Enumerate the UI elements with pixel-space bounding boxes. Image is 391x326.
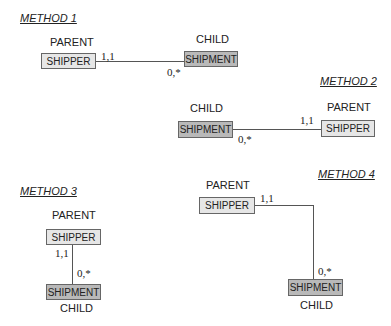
method-1-child-label: CHILD <box>196 33 229 45</box>
method-2-child-label: CHILD <box>190 102 223 114</box>
method-4-relationship-line-vertical <box>313 205 314 280</box>
method-4-parent-label: PARENT <box>206 179 250 191</box>
method-3-shipper-entity: SHIPPER <box>46 229 101 245</box>
method-1-parent-label: PARENT <box>50 36 94 48</box>
method-4-relationship-line-horizontal <box>255 205 314 206</box>
method-2-relationship-line <box>233 129 321 130</box>
method-3-relationship-line <box>72 245 73 284</box>
method-1-shipper-entity: SHIPPER <box>41 53 96 69</box>
method-2-parent-cardinality: 1,1 <box>300 114 314 126</box>
method-1-shipment-entity: SHIPMENT <box>184 51 238 67</box>
method-2-parent-label: PARENT <box>327 101 371 113</box>
method-2-child-cardinality: 0,* <box>238 133 252 145</box>
method-3-shipment-entity: SHIPMENT <box>46 284 101 300</box>
method-4-shipment-entity: SHIPMENT <box>288 279 343 296</box>
method-1-title: METHOD 1 <box>20 12 77 24</box>
method-3-child-label: CHILD <box>60 302 93 314</box>
method-1-child-cardinality: 0,* <box>167 66 181 78</box>
method-4-title: METHOD 4 <box>318 168 375 180</box>
method-2-title: METHOD 2 <box>320 75 377 87</box>
method-1-parent-cardinality: 1,1 <box>101 50 115 62</box>
method-3-child-cardinality: 0,* <box>77 267 91 279</box>
method-3-parent-cardinality: 1,1 <box>55 247 69 259</box>
method-4-parent-cardinality: 1,1 <box>260 192 274 204</box>
method-4-child-cardinality: 0,* <box>318 265 332 277</box>
method-4-shipper-entity: SHIPPER <box>199 197 255 214</box>
method-2-shipper-entity: SHIPPER <box>321 120 375 137</box>
method-3-parent-label: PARENT <box>52 209 96 221</box>
method-3-title: METHOD 3 <box>20 185 77 197</box>
method-4-child-label: CHILD <box>300 299 333 311</box>
method-2-shipment-entity: SHIPMENT <box>178 121 233 138</box>
